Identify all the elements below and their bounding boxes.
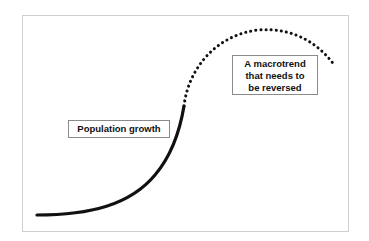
- growth-curve-graphic: [0, 0, 369, 241]
- population-growth-label: Population growth: [68, 120, 170, 138]
- macrotrend-label: A macrotrend that needs to be reversed: [232, 55, 318, 95]
